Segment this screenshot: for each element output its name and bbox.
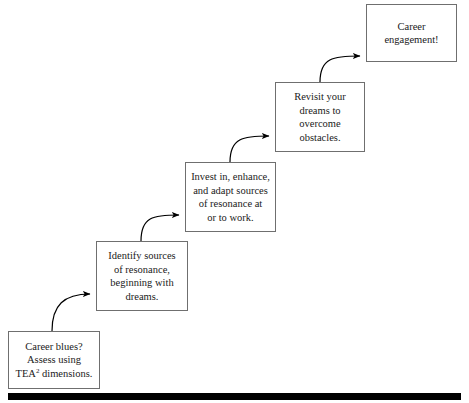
node-revisit-dreams-label: Revisit your dreams to overcome obstacle… — [290, 90, 350, 144]
connector-arrow-1 — [52, 294, 90, 331]
node-career-engagement[interactable]: Career engagement! — [366, 4, 457, 62]
connector-arrow-2 — [141, 215, 179, 241]
connector-arrow-3 — [230, 136, 269, 162]
node-identify-sources-label: Identify sources of resonance, beginning… — [104, 249, 179, 303]
diagram-page: Career blues? Assess using TEA2 dimensio… — [0, 0, 469, 403]
node-career-blues[interactable]: Career blues? Assess using TEA2 dimensio… — [8, 331, 100, 389]
node-career-engagement-label: Career engagement! — [380, 20, 442, 47]
node-revisit-dreams[interactable]: Revisit your dreams to overcome obstacle… — [275, 82, 365, 152]
node-invest-enhance-adapt-label: Invest in, enhance, and adapt sources of… — [187, 170, 274, 224]
node-career-blues-label: Career blues? Assess using TEA2 dimensio… — [11, 340, 96, 381]
bottom-rule-divider — [8, 393, 461, 400]
connector-arrow-4 — [320, 56, 360, 82]
node-identify-sources[interactable]: Identify sources of resonance, beginning… — [96, 241, 188, 311]
node-invest-enhance-adapt[interactable]: Invest in, enhance, and adapt sources of… — [185, 162, 276, 232]
